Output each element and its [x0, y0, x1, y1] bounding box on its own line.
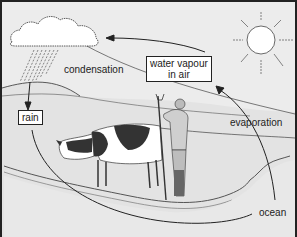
evaporation-label: evaporation	[230, 117, 282, 128]
cloud-icon	[10, 17, 98, 46]
water-vapour-line2: in air	[150, 69, 208, 80]
rain-streaks	[20, 50, 58, 82]
condensation-label: condensation	[64, 64, 124, 75]
ocean-label: ocean	[259, 207, 286, 218]
water-vapour-label: water vapour in air	[146, 56, 212, 82]
water-vapour-line1: water vapour	[150, 58, 208, 69]
rain-label: rain	[18, 110, 43, 125]
sun-icon	[233, 12, 293, 74]
